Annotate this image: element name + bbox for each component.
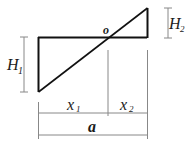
diagram-canvas: o H 1 H 2 x 1 x 2 a <box>0 0 185 149</box>
svg-text:x: x <box>119 96 127 113</box>
svg-text:1: 1 <box>76 104 81 114</box>
diagonal <box>39 8 148 92</box>
label-o: o <box>103 23 109 37</box>
dimensions <box>20 8 172 139</box>
label-h1: H 1 <box>6 56 23 76</box>
label-x2: x 2 <box>119 96 134 114</box>
triangle-shape <box>38 8 148 92</box>
svg-text:2: 2 <box>180 24 185 34</box>
svg-text:2: 2 <box>129 104 134 114</box>
label-h2: H 2 <box>168 15 185 34</box>
svg-text:x: x <box>66 96 74 113</box>
svg-text:1: 1 <box>18 65 23 76</box>
label-a: a <box>88 118 96 135</box>
label-x1: x 1 <box>66 96 81 114</box>
